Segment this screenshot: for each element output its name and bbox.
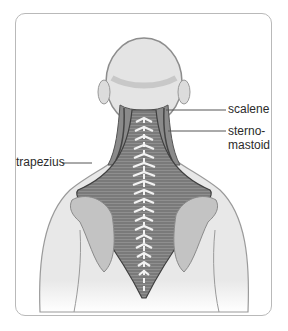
label-trapezius: trapezius	[16, 156, 65, 169]
label-scalene: scalene	[228, 103, 269, 116]
label-sternomastoid-line1: sterno-	[228, 125, 265, 138]
label-sternomastoid-line2: mastoid	[228, 139, 270, 152]
